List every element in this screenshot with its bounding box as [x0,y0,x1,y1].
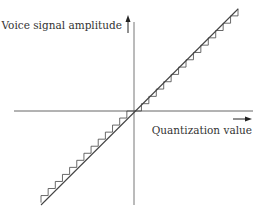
quantization-steps [41,9,238,203]
step-negative [127,111,134,118]
x-axis-label: Quantization value [152,124,252,136]
arrow-right-icon [233,117,252,122]
y-axis-label: Voice signal amplitude [1,19,123,31]
step-negative [113,125,120,132]
quantization-diagram: Voice signal amplitude Quantization valu… [0,0,266,220]
step-negative [120,118,127,125]
arrow-up-icon [126,15,131,33]
